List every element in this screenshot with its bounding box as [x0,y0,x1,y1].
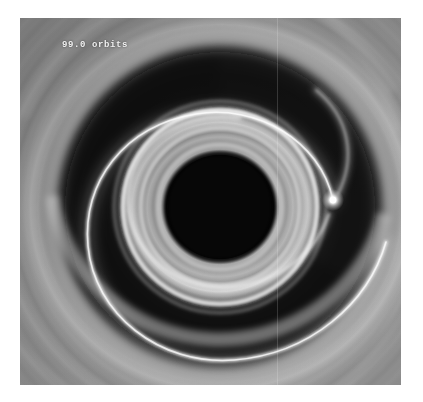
disk-simulation-render [20,18,401,385]
disk-simulation-panel: 99.0 orbits [20,18,401,385]
figure-root: 99.0 orbits [0,0,423,402]
inner-cavity [168,155,272,259]
companion-point-source [330,197,336,203]
